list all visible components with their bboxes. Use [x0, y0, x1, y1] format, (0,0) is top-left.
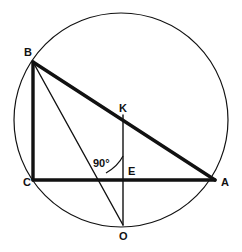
- vertex-label-B: B: [24, 46, 32, 58]
- vertex-label-O: O: [119, 230, 128, 242]
- vertex-label-C: C: [23, 176, 31, 188]
- angle-label-90-degrees: 90°: [93, 157, 110, 169]
- vertex-label-A: A: [221, 176, 229, 188]
- vertex-label-E: E: [128, 165, 135, 177]
- vertex-label-K: K: [119, 102, 127, 114]
- geometry-figure: 90° B C A K E O: [0, 0, 242, 252]
- segment-chord-b-to-o: [33, 62, 123, 225]
- segment-hypotenuse-b-to-a: [33, 62, 215, 180]
- geometry-canvas: 90° B C A K E O: [0, 0, 242, 252]
